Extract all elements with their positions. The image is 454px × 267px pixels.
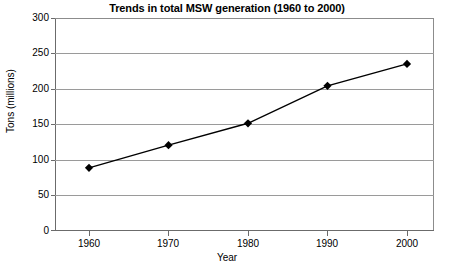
gridline-150 [55, 124, 434, 125]
x-tick-label-1960: 1960 [59, 239, 119, 249]
gridline-100 [55, 160, 434, 161]
x-tick-mark-1970 [168, 231, 169, 236]
x-tick-label-1970: 1970 [138, 239, 198, 249]
x-tick-mark-2000 [407, 231, 408, 236]
chart-container: Trends in total MSW generation (1960 to … [0, 0, 454, 267]
chart-title: Trends in total MSW generation (1960 to … [0, 2, 454, 14]
x-tick-mark-1990 [327, 231, 328, 236]
y-axis-title: Tons (millions) [6, 46, 16, 156]
x-tick-label-1990: 1990 [297, 239, 357, 249]
y-tick-label-0: 0 [7, 226, 49, 236]
x-tick-label-1980: 1980 [218, 239, 278, 249]
gridline-250 [55, 53, 434, 54]
plot-area [55, 18, 434, 230]
x-tick-mark-1980 [248, 231, 249, 236]
gridline-200 [55, 89, 434, 90]
gridline-50 [55, 195, 434, 196]
gridline-300 [55, 18, 434, 19]
x-tick-mark-1960 [89, 231, 90, 236]
y-tick-label-100: 100 [7, 155, 49, 165]
x-axis-title: Year [0, 253, 454, 263]
gridline-0 [55, 230, 434, 231]
y-tick-label-300: 300 [7, 13, 49, 23]
y-tick-label-50: 50 [7, 190, 49, 200]
x-tick-label-2000: 2000 [377, 239, 437, 249]
